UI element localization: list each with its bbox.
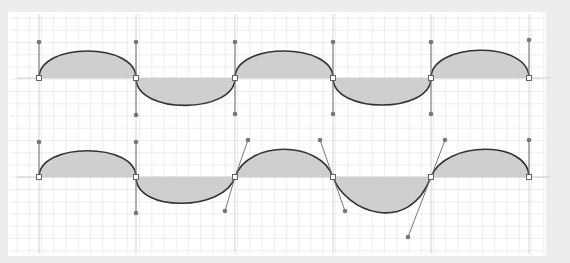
anchor-point[interactable] [233, 76, 238, 81]
control-handle-point[interactable] [37, 40, 42, 45]
control-handle-point[interactable] [134, 140, 139, 145]
anchor-point[interactable] [331, 175, 336, 180]
anchor-point[interactable] [134, 175, 139, 180]
anchor-point[interactable] [37, 76, 42, 81]
anchor-point[interactable] [37, 175, 42, 180]
bezier-diagram [0, 0, 570, 263]
anchor-point[interactable] [233, 175, 238, 180]
anchor-point[interactable] [527, 76, 532, 81]
control-handle-point[interactable] [134, 40, 139, 45]
control-handle-point[interactable] [233, 40, 238, 45]
control-handle-point[interactable] [331, 112, 336, 117]
control-handle-point[interactable] [233, 112, 238, 117]
anchor-point[interactable] [331, 76, 336, 81]
anchor-point[interactable] [134, 76, 139, 81]
control-handle-point[interactable] [37, 140, 42, 145]
control-handle-point[interactable] [443, 138, 448, 143]
wave-fill [39, 50, 529, 105]
control-handle-point[interactable] [246, 138, 251, 143]
control-handle-point[interactable] [318, 138, 323, 143]
control-handle-point[interactable] [134, 113, 139, 118]
control-handle-point[interactable] [527, 38, 532, 43]
control-handle-point[interactable] [331, 40, 336, 45]
control-handle-point[interactable] [223, 209, 228, 214]
control-handle-point[interactable] [429, 112, 434, 117]
control-handle-point[interactable] [343, 209, 348, 214]
grid [10, 14, 545, 254]
control-handle-point[interactable] [134, 211, 139, 216]
anchor-point[interactable] [527, 175, 532, 180]
wave-fill [39, 149, 529, 213]
anchor-point[interactable] [429, 76, 434, 81]
control-handle-point[interactable] [406, 235, 411, 240]
control-handle-point[interactable] [527, 138, 532, 143]
control-handle-point[interactable] [429, 40, 434, 45]
anchor-point[interactable] [429, 175, 434, 180]
